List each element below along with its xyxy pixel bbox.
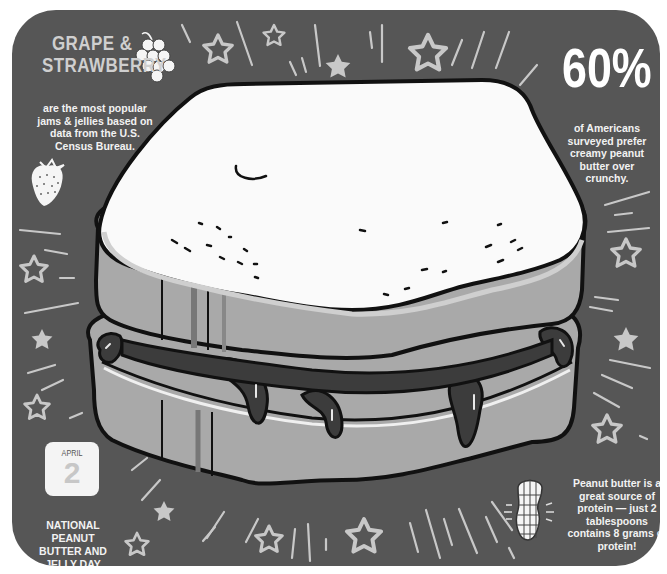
protein-description: Peanut butter is a great source of prote…	[567, 477, 660, 552]
date-day: 2	[45, 457, 99, 489]
poster-panel: GRAPE & STRAWBERRY are the most popular …	[12, 10, 660, 566]
grape-strawberry-heading: GRAPE & STRAWBERRY	[42, 32, 142, 76]
heading-line-2: STRAWBERRY	[42, 54, 142, 76]
creamy-stat: 60%	[562, 38, 642, 98]
grape-strawberry-description: are the most popular jams & jellies base…	[30, 102, 160, 152]
creamy-description: of Americans surveyed prefer creamy pean…	[557, 122, 657, 185]
heading-line-1: GRAPE &	[42, 32, 142, 54]
date-card: APRIL 2	[45, 442, 99, 496]
date-month: APRIL	[50, 448, 93, 458]
holiday-caption: NATIONAL PEANUT BUTTER AND JELLY DAY	[32, 519, 114, 566]
